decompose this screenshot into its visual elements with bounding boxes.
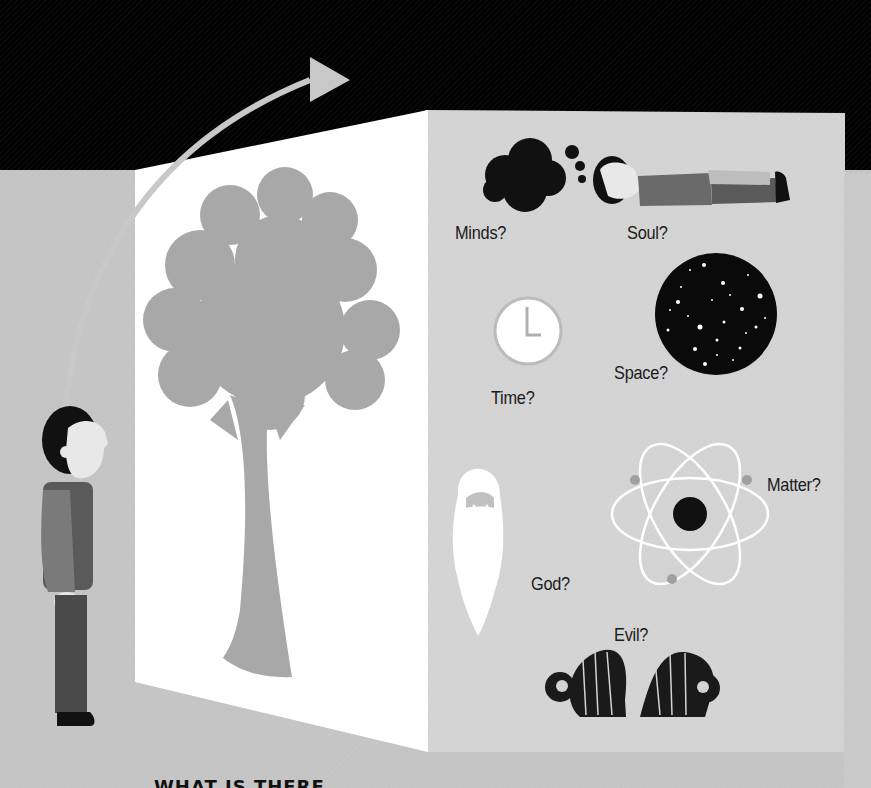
illustration-scene: Minds? Soul? Time? Space? God? Matter? E… [0,0,871,788]
label-minds: Minds? [455,222,506,244]
label-god: God? [531,573,570,595]
starfield-icon [655,253,777,375]
label-time: Time? [491,387,535,409]
label-evil: Evil? [614,624,648,646]
label-soul: Soul? [627,222,668,244]
clock-icon [495,298,561,364]
scene-graphics [0,0,871,788]
label-matter: Matter? [767,474,821,496]
cropped-footer-heading: WHAT IS THERE [154,776,325,788]
label-space: Space? [614,362,668,384]
